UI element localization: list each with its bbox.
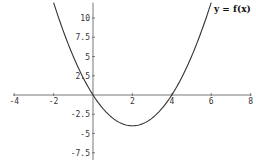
x-tick-label: -2: [49, 97, 59, 106]
function-plot: -4-22468107.552.5-2.5-5-7.5 y = f(x): [0, 0, 256, 160]
x-tick-label: 2: [130, 97, 135, 106]
function-curve: [54, 3, 212, 126]
x-tick-label: 6: [209, 97, 214, 106]
y-tick-label: 5: [85, 53, 90, 62]
y-tick-label: -5: [80, 130, 90, 139]
curve-label: y = f(x): [213, 4, 251, 14]
x-tick-label: 8: [248, 97, 253, 106]
y-tick-label: -7.5: [71, 149, 90, 158]
ticks: -4-22468107.552.5-2.5-5-7.5: [9, 14, 253, 158]
y-tick-label: 7.5: [76, 33, 91, 42]
y-tick-label: 10: [80, 14, 90, 23]
x-tick-label: -4: [9, 97, 19, 106]
y-tick-label: -2.5: [71, 110, 90, 119]
axes: [13, 3, 251, 160]
